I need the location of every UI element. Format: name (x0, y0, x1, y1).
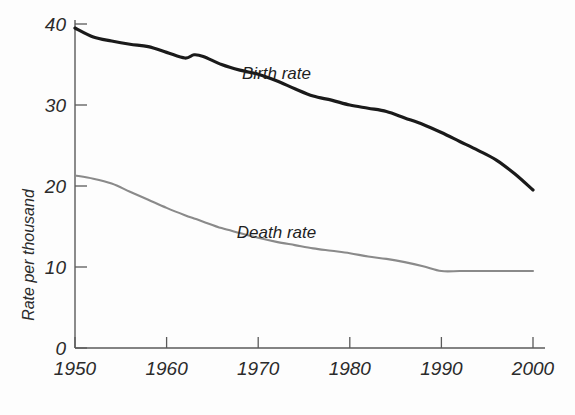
x-tick-group (75, 337, 533, 348)
x-tick-label: 1960 (145, 358, 188, 379)
y-tick-label: 0 (55, 338, 66, 359)
x-tick-label: 1950 (54, 358, 97, 379)
series-label-birth-rate: Birth rate (242, 64, 311, 83)
y-tick-label: 40 (45, 14, 67, 35)
chart-canvas: 010203040 195019601970198019902000 Rate … (0, 0, 575, 415)
y-tick-label: 10 (45, 257, 67, 278)
x-tick-label: 1980 (329, 358, 372, 379)
y-tick-label: 20 (44, 176, 67, 197)
x-tick-label: 1990 (420, 358, 463, 379)
x-tick-label-group: 195019601970198019902000 (54, 358, 555, 379)
y-axis: 010203040 (44, 14, 87, 359)
y-tick-group (75, 24, 87, 348)
x-tick-label: 2000 (511, 358, 555, 379)
series-label-death-rate: Death rate (237, 223, 316, 242)
y-axis-title: Rate per thousand (20, 188, 37, 321)
y-tick-label: 30 (45, 95, 67, 116)
demographic-transition-chart: 010203040 195019601970198019902000 Rate … (0, 0, 575, 415)
series-label-group: Birth rateDeath rate (237, 64, 316, 242)
y-tick-label-group: 010203040 (44, 14, 67, 359)
x-axis: 195019601970198019902000 (54, 337, 555, 379)
x-tick-label: 1970 (237, 358, 280, 379)
series-line-birth-rate (75, 28, 533, 190)
